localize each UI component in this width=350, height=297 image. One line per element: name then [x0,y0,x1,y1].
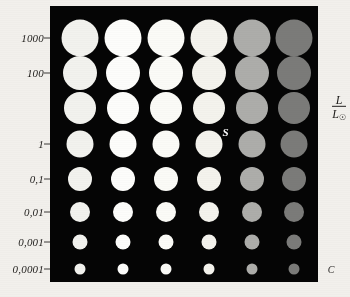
star-marker [192,56,226,90]
y-axis-tick-label: 1000 [21,32,44,44]
star-marker [107,92,139,124]
star-marker [113,202,133,222]
star-marker [193,92,225,124]
star-marker [201,234,216,249]
star-marker [154,167,178,191]
star-marker [160,264,171,275]
y-axis-tick-mark [44,241,50,242]
y-axis-title: L L☉ [332,94,346,122]
y-axis-label-group: 100010010,10,010,0010,0001 [0,0,44,297]
star-marker [287,234,302,249]
star-marker [236,92,268,124]
star-marker [235,56,269,90]
star-marker [277,56,311,90]
y-axis-tick-label: 100 [27,67,44,79]
y-axis-tick-mark [44,38,50,39]
star-marker [147,20,184,57]
star-marker [150,92,182,124]
star-marker [117,264,128,275]
star-marker [244,234,259,249]
y-axis-tick-mark [44,179,50,180]
sun-symbol-icon: ☉ [339,113,346,122]
star-marker [246,264,257,275]
star-marker [242,202,262,222]
annotation-s: S [223,126,229,138]
star-marker [158,234,173,249]
star-marker [68,167,92,191]
star-marker [70,202,90,222]
star-marker [106,56,140,90]
star-marker [152,131,179,158]
star-marker [73,234,88,249]
y-axis-tick-mark [44,211,50,212]
star-marker [282,167,306,191]
y-axis-tick-label: 0,1 [30,173,44,185]
star-marker [197,167,221,191]
y-axis-title-numerator: L [332,94,346,107]
star-marker [62,20,99,57]
stellar-luminosity-figure: 100010010,10,010,0010,0001 L L☉ S C [0,0,350,297]
star-marker [63,56,97,90]
star-marker [115,234,130,249]
star-marker [104,20,141,57]
star-marker [278,92,310,124]
plot-area: S [50,6,318,282]
star-marker [289,264,300,275]
star-marker [190,20,227,57]
x-axis-label: C [328,264,335,275]
star-marker [281,131,308,158]
star-marker [67,131,94,158]
y-axis-title-denominator: L☉ [332,107,346,122]
star-marker [276,20,313,57]
y-axis-tick-label: 0,01 [24,206,44,218]
star-marker [284,202,304,222]
star-marker [64,92,96,124]
y-axis-tick-label: 0,001 [18,236,44,248]
star-marker [238,131,265,158]
star-marker [156,202,176,222]
star-marker [109,131,136,158]
star-marker [233,20,270,57]
y-axis-tick-mark [44,269,50,270]
y-axis-tick-mark [44,144,50,145]
star-marker [149,56,183,90]
y-axis-tick-label: 0,0001 [13,263,44,275]
star-marker [195,131,222,158]
star-marker [199,202,219,222]
star-marker [203,264,214,275]
star-marker [111,167,135,191]
star-marker [75,264,86,275]
star-marker [240,167,264,191]
y-axis-tick-mark [44,73,50,74]
